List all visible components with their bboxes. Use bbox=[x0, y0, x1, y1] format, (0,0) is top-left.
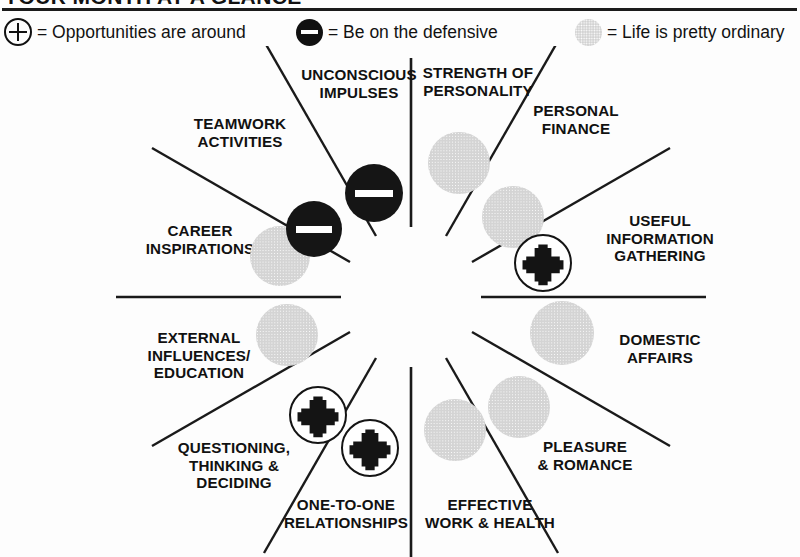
sector-label-strength-of-personality: STRENGTH OF PERSONALITY bbox=[416, 64, 540, 99]
sector-label-teamwork-activities: TEAMWORK ACTIVITIES bbox=[176, 115, 304, 150]
marker-ordinary-strength-of-personality bbox=[428, 132, 490, 194]
marker-ordinary-pleasure-and-romance bbox=[488, 376, 550, 438]
marker-opportunity-one-to-one-relationships bbox=[341, 419, 399, 477]
legend-item-label: = Life is pretty ordinary bbox=[607, 22, 785, 43]
cross-icon bbox=[291, 388, 345, 442]
sector-label-career-inspirations: CAREER INSPIRATIONS bbox=[136, 222, 264, 257]
gray-dot-icon bbox=[575, 19, 602, 46]
page-root: YOUR MONTH AT A GLANCE = Opportunities a… bbox=[0, 0, 800, 557]
legend-text-3: Life is pretty ordinary bbox=[622, 22, 784, 42]
plus-circle-icon bbox=[4, 18, 32, 46]
legend-text-1: Opportunities are around bbox=[52, 22, 246, 42]
legend-item-label: = Opportunities are around bbox=[37, 22, 246, 43]
marker-ordinary-effective-work-and-health bbox=[424, 399, 486, 461]
marker-opportunity-useful-information-gathering bbox=[514, 234, 572, 292]
minus-circle-icon bbox=[296, 19, 323, 46]
legend-equals-3: = bbox=[607, 22, 617, 42]
sector-label-external-influences-education: EXTERNAL INFLUENCES/ EDUCATION bbox=[132, 329, 266, 382]
legend-equals-1: = bbox=[37, 22, 47, 42]
marker-defensive-teamwork-activities bbox=[286, 201, 342, 257]
marker-ordinary-domestic-affairs bbox=[530, 301, 594, 365]
legend-item-label: = Be on the defensive bbox=[328, 22, 498, 43]
cross-icon bbox=[516, 236, 570, 290]
legend-equals-2: = bbox=[328, 22, 338, 42]
marker-ordinary-external-influences-education bbox=[256, 304, 318, 366]
sector-label-domestic-affairs: DOMESTIC AFFAIRS bbox=[600, 331, 720, 366]
page-title-text: YOUR MONTH AT A GLANCE bbox=[0, 0, 800, 8]
page-title: YOUR MONTH AT A GLANCE bbox=[0, 0, 800, 8]
marker-defensive-unconscious-impulses bbox=[345, 164, 403, 222]
sector-label-pleasure-and-romance: PLEASURE & ROMANCE bbox=[525, 438, 645, 473]
sector-label-unconscious-impulses: UNCONSCIOUS IMPULSES bbox=[294, 66, 424, 101]
sector-label-effective-work-and-health: EFFECTIVE WORK & HEALTH bbox=[420, 496, 560, 531]
marker-opportunity-questioning-thinking-deciding bbox=[289, 386, 347, 444]
title-divider bbox=[2, 8, 797, 11]
life-areas-wheel: STRENGTH OF PERSONALITY PERSONAL FINANCE… bbox=[0, 46, 800, 557]
sector-label-questioning-thinking-deciding: QUESTIONING, THINKING & DECIDING bbox=[168, 439, 300, 492]
sector-label-personal-finance: PERSONAL FINANCE bbox=[516, 102, 636, 137]
sector-label-useful-information-gathering: USEFUL INFORMATION GATHERING bbox=[595, 212, 725, 265]
legend-text-2: Be on the defensive bbox=[343, 22, 498, 42]
sector-label-one-to-one-relationships: ONE-TO-ONE RELATIONSHIPS bbox=[276, 496, 416, 531]
wheel-spokes bbox=[0, 46, 800, 557]
cross-icon bbox=[343, 421, 397, 475]
